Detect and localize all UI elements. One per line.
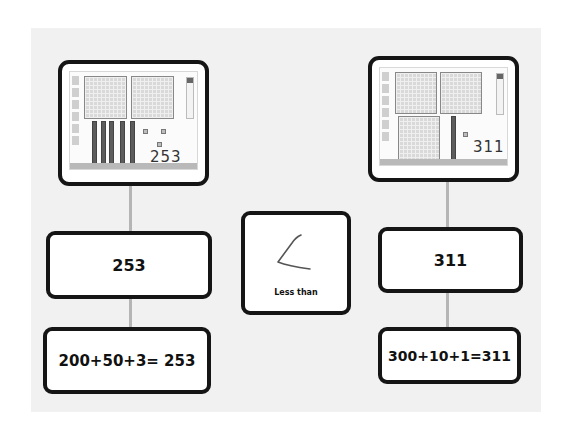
right-number-text: 311 — [434, 251, 467, 270]
left-number-card: 253 — [46, 231, 212, 299]
unit-cube — [161, 129, 166, 134]
left-number-text: 253 — [112, 256, 145, 275]
hundred-block — [440, 72, 482, 114]
hundred-block — [395, 72, 437, 114]
left-expanded-form-card: 200+50+3= 253 — [43, 327, 211, 394]
handwritten-number: 311 — [473, 138, 505, 156]
right-tool-panel — [496, 73, 504, 115]
left-tool-panel — [382, 72, 389, 155]
right-tablet-screenshot: 311 — [368, 56, 519, 182]
ten-rod — [130, 121, 135, 166]
hundred-block — [398, 116, 440, 160]
connector-right-top — [446, 180, 449, 230]
right-tool-panel — [186, 77, 194, 119]
bottom-toolbar — [70, 163, 197, 169]
right-expanded-form-card: 300+10+1=311 — [378, 327, 521, 384]
ten-rod — [92, 121, 97, 166]
right-expanded-form-text: 300+10+1=311 — [388, 348, 511, 364]
ten-rod — [109, 121, 114, 166]
hundred-block — [84, 76, 127, 119]
left-expanded-form-text: 200+50+3= 253 — [59, 352, 196, 370]
less-than-symbol-drawing — [266, 229, 326, 279]
unit-cube — [143, 129, 148, 134]
right-number-card: 311 — [378, 227, 523, 293]
right-tablet-screen: 311 — [379, 67, 508, 166]
left-tool-panel — [72, 76, 79, 159]
comparison-card: Less than — [241, 211, 351, 315]
connector-right-bottom — [446, 292, 449, 328]
left-tablet-screen: 253 — [69, 71, 198, 170]
hundred-block — [131, 76, 174, 119]
unit-cube — [463, 132, 468, 137]
bottom-toolbar — [380, 159, 507, 165]
ten-rod — [101, 121, 106, 166]
connector-left-bottom — [129, 298, 132, 328]
unit-cube — [157, 142, 162, 147]
comparison-label: Less than — [245, 288, 347, 297]
ten-rod — [120, 121, 125, 166]
ten-rod — [451, 116, 456, 160]
connector-left-top — [129, 186, 132, 232]
left-tablet-screenshot: 253 — [58, 60, 209, 186]
